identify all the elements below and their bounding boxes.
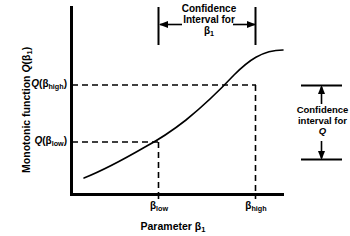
q-high-sub: high [48, 82, 63, 91]
x-axis-ticks [159, 196, 256, 199]
confidence-interval-beta-label: Confidence Interval for β1 [176, 3, 242, 37]
x-tick-label-beta-low: βlow [140, 200, 178, 211]
ci-beta-line1: Confidence [182, 3, 236, 14]
monotonic-curve [84, 50, 283, 178]
x-axis-title: Parameter β1 [108, 221, 238, 233]
guide-lines [72, 85, 256, 194]
x-axis-title-prefix: Parameter [141, 220, 195, 232]
x-tick-label-beta-high: βhigh [234, 200, 278, 211]
q-high-fn: Q [31, 78, 39, 89]
x-axis-title-sub: 1 [201, 225, 205, 234]
y-axis-title: Monotonic function Q(β1) [21, 25, 33, 195]
q-high-close: ) [64, 78, 67, 89]
ci-beta-line3-sub: 1 [210, 29, 214, 38]
ci-beta-line2: Interval for [183, 14, 235, 25]
ci-beta-left-arrowhead [159, 21, 168, 28]
y-axis-title-symbol: Q [20, 64, 32, 72]
beta-high-sub: high [251, 204, 266, 213]
q-low-close: ) [64, 135, 67, 146]
q-low-open: (β [42, 135, 51, 146]
ci-q-line3-symbol: Q [319, 125, 326, 136]
ci-q-line1: Confidence [297, 104, 349, 115]
figure-container: Confidence Interval for β1 Confidence in… [0, 0, 350, 236]
beta-low-sub: low [156, 204, 168, 213]
y-tick-label-q-beta-high: Q(βhigh) [31, 78, 67, 89]
y-axis-title-arg-sub: 1 [25, 50, 34, 54]
ci-q-line2: interval for [298, 115, 347, 126]
confidence-interval-q-label: Confidence interval for Q [295, 105, 350, 137]
y-tick-label-q-beta-low: Q(βlow) [34, 135, 67, 146]
q-low-sub: low [52, 139, 64, 148]
y-axis-title-arg-open: (β [20, 55, 32, 65]
